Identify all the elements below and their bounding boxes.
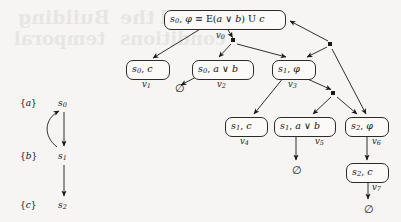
emptyset-leaf-e2: ∅ [292,164,302,176]
junction-node-j3 [331,91,335,95]
tableau-node-label-v0: v0 [216,30,225,41]
junction-node-j2 [328,42,332,46]
tableau-node-v6[interactable]: s2, φ [345,117,389,137]
tableau-node-label-v7: v7 [372,182,381,193]
edge-j3-v6 [337,97,357,114]
tableau-node-label-v1: v1 [142,79,151,90]
ts-state-s0: s0 [58,98,67,109]
tableau-node-label-v4: v4 [240,136,249,147]
edge-j3-v5 [313,97,331,114]
edge-s1-s0 [47,111,59,147]
tableau-node-v5[interactable]: s1, a ∨ b [274,117,336,137]
emptyset-leaf-e1: ∅ [175,82,185,94]
tableau-node-v2[interactable]: s0, a ∨ b [192,60,254,80]
tableau-node-v7[interactable]: s2, c [346,163,389,183]
edge-j2-v3 [307,47,327,57]
ts-state-s2: s2 [58,200,67,211]
ts-ap-label-s1: {b} [20,151,37,161]
edge-j1-v3 [237,44,286,57]
edge-j1-v2 [219,44,231,57]
ts-ap-label-s0: {a} [20,98,37,108]
edge-v0-v1 [153,28,202,58]
tableau-node-label-v5: v5 [315,136,324,147]
edge-layer [0,0,401,222]
tableau-node-v4[interactable]: s1, c [225,117,268,137]
tableau-node-label-v2: v2 [217,79,226,90]
tableau-node-v0[interactable]: s0, φ ≡ E(a ∨ b) U c [164,10,286,30]
edge-j2-v6 [332,49,366,114]
ts-state-s1: s1 [58,151,67,162]
tableau-node-v3[interactable]: s1, φ [272,60,316,80]
tableau-node-v1[interactable]: s0, c [126,60,170,80]
edge-v3-v4 [254,77,284,114]
edge-j2-v0 [290,21,328,41]
emptyset-leaf-e3: ∅ [364,203,374,215]
figure-canvas: BuildingtheHybridtemporalconditions [0,0,401,222]
tableau-node-label-v3: v3 [288,79,297,90]
tableau-node-label-v6: v6 [372,136,381,147]
junction-node-j1 [231,38,235,42]
ts-ap-label-s2: {c} [20,200,37,210]
